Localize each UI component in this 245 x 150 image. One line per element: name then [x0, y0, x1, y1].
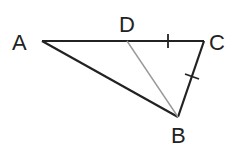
- label-d: D: [119, 12, 135, 37]
- segment-ab: [42, 41, 178, 117]
- triangle-diagram: A D C B: [0, 0, 245, 150]
- label-b: B: [171, 123, 186, 148]
- segment-cb: [178, 41, 204, 117]
- segment-db: [127, 41, 178, 117]
- label-c: C: [209, 30, 225, 55]
- label-a: A: [12, 30, 27, 55]
